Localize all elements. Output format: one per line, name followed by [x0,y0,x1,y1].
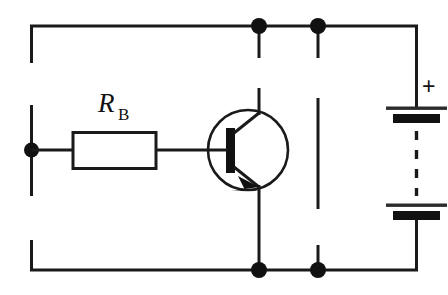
resistor-label-subscript: B [118,105,129,124]
node-dot-top-supply [310,18,326,34]
circuit-diagram: R B [0,0,448,295]
battery-upper-short-plate [393,114,440,123]
transistor-collector-lead [234,113,259,133]
circuit-schematic-canvas: R B [0,0,448,295]
battery-lower-long-plate [386,204,447,207]
resistor-body [73,133,156,169]
battery-upper-long-plate [386,107,447,110]
node-dot-bottom-supply [310,262,326,278]
battery-lower-short-plate [393,211,440,220]
transistor-base-bar [226,128,235,173]
node-dot-bottom-emitter [251,262,267,278]
node-dot-top-collector [251,18,267,34]
resistor-label-symbol: R [97,88,115,118]
battery-polarity-label: + [422,73,435,99]
